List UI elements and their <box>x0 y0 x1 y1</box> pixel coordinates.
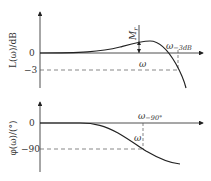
crossover-label: ω−90° <box>138 111 162 122</box>
phase-curve <box>40 123 180 164</box>
tick-minus3: −3 <box>24 65 38 75</box>
magnitude-y-label: L(ω)/dB <box>8 32 18 68</box>
peak-label: Mr <box>128 27 140 41</box>
phase-plot: φ(ω)/(°) 0 −90 ω ω−90° <box>8 102 203 172</box>
omega-label-top: ω <box>139 59 147 69</box>
omega-label-bottom: ω <box>134 133 142 143</box>
bode-diagram: L(ω)/dB 0 −3 Mr ω ω−3dB φ(ω)/(°) 0 −90 ω… <box>0 0 211 181</box>
tick-0-bottom: 0 <box>29 118 35 128</box>
magnitude-curve <box>40 41 186 88</box>
tick-0-top: 0 <box>29 48 35 58</box>
cutoff-label: ω−3dB <box>166 41 192 52</box>
tick-minus90: −90 <box>21 144 40 154</box>
phase-y-label: φ(ω)/(°) <box>8 120 18 155</box>
magnitude-plot: L(ω)/dB 0 −3 Mr ω ω−3dB <box>8 12 203 88</box>
